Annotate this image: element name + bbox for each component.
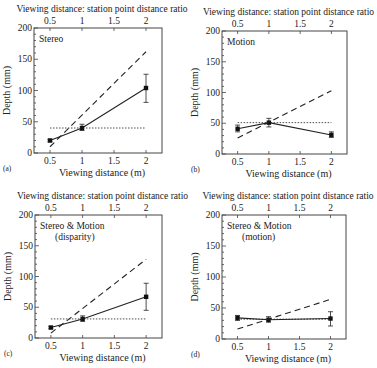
data-point-marker [144,295,148,299]
panel-title: (motion) [242,232,275,243]
x-tick-label: 1.5 [108,341,120,351]
x-tick-label: 1 [267,157,272,167]
dashed-prediction-line [238,91,332,138]
y-tick-label: 0 [27,148,32,158]
x-tick-label: 2 [328,342,333,352]
x-tick-label: 1 [80,341,85,351]
y-tick-label: 0 [28,333,33,343]
figure-four-panel-depth-chart: Viewing distance: station point distance… [0,0,377,368]
top-tick-label: 1 [267,19,272,29]
x-tick-label: 1 [266,342,271,352]
observed-data-line [51,297,146,328]
x-tick-label: 0.5 [44,156,56,166]
top-axis-label: Viewing distance: station point distance… [16,4,187,14]
x-tick-label: 1.5 [294,157,306,167]
y-tick-label: 50 [211,118,221,128]
x-tick-label: 2 [144,156,149,166]
top-tick-label: 1 [266,203,271,213]
dashed-prediction-line [238,299,331,329]
top-tick-label: 1.5 [108,16,120,26]
y-tick-label: 0 [215,149,220,159]
data-point-marker [144,86,148,90]
x-tick-label: 0.5 [45,341,57,351]
data-point-marker [328,316,332,320]
y-axis-label: Depth (mm) [1,66,13,115]
panel-title: Stereo & Motion [40,221,105,231]
x-axis-label: Viewing distance (m) [245,353,331,365]
y-axis-label: Depth (mm) [189,252,201,301]
top-tick-label: 1.5 [294,19,306,29]
panel-title: (disparity) [55,232,95,243]
top-axis-label: Viewing distance: station point distance… [203,7,374,17]
x-axis-label: Viewing distance (m) [59,167,145,179]
y-tick-label: 50 [23,117,33,127]
panel-title: Motion [227,37,255,47]
top-tick-label: 2 [329,19,334,29]
y-tick-label: 100 [206,88,221,98]
top-axis-label: Viewing distance: station point distance… [17,191,188,201]
x-tick-label: 1.5 [108,156,120,166]
top-tick-label: 1.5 [108,203,120,213]
y-tick-label: 200 [206,210,221,220]
panel-c: Viewing distance: station point distance… [2,191,188,364]
x-tick-label: 1.5 [294,342,306,352]
top-tick-label: 2 [328,203,333,213]
panel-label: (d) [191,350,200,359]
top-tick-label: 0.5 [44,16,56,26]
observed-data-line [238,123,332,135]
top-tick-label: 0.5 [45,203,57,213]
panel-label: (b) [191,165,200,174]
panel-a: Viewing distance: station point distance… [1,4,188,179]
top-tick-label: 1 [80,203,85,213]
y-axis-label: Depth (mm) [2,252,14,301]
top-tick-label: 2 [144,203,149,213]
y-tick-label: 150 [206,57,221,67]
x-tick-label: 1 [80,156,85,166]
top-tick-label: 1 [80,16,85,26]
top-axis-label: Viewing distance: station point distance… [202,191,373,201]
data-point-marker [329,133,333,137]
panel-b: Viewing distance: station point distance… [189,7,374,180]
top-tick-label: 0.5 [232,19,244,29]
x-axis-label: Viewing distance (m) [59,352,145,364]
x-tick-label: 0.5 [232,157,244,167]
dashed-prediction-line [50,52,146,147]
y-tick-label: 0 [215,334,220,344]
y-tick-label: 150 [206,241,221,251]
panel-d: Viewing distance: station point distance… [189,191,374,365]
y-tick-label: 100 [19,272,34,282]
data-point-marker [235,127,239,131]
data-point-marker [49,325,53,329]
y-tick-label: 150 [19,241,34,251]
y-tick-label: 100 [18,86,33,96]
x-tick-label: 0.5 [232,342,244,352]
panel-label: (c) [4,349,13,358]
y-tick-label: 50 [211,303,221,313]
y-tick-label: 200 [18,23,33,33]
y-tick-label: 150 [18,54,33,64]
panel-title: Stereo [39,34,64,44]
panel-title: Stereo & Motion [227,221,292,231]
top-tick-label: 0.5 [232,203,244,213]
top-tick-label: 1.5 [294,203,306,213]
panel-label: (a) [3,164,12,173]
x-tick-label: 2 [329,157,334,167]
y-axis-label: Depth (mm) [189,68,201,117]
y-tick-label: 100 [206,272,221,282]
plot-frame [222,215,346,339]
y-tick-label: 200 [19,210,34,220]
data-point-marker [48,138,52,142]
x-tick-label: 2 [144,341,149,351]
x-axis-label: Viewing distance (m) [245,168,331,180]
top-tick-label: 2 [144,16,149,26]
dashed-prediction-line [51,259,146,333]
y-tick-label: 50 [24,302,34,312]
y-tick-label: 200 [206,26,221,36]
